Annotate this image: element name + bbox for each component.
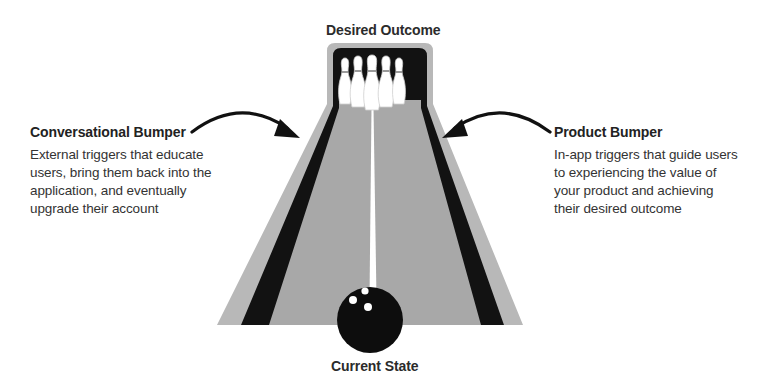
description-line: application, and eventually [30, 182, 260, 200]
description-line: External triggers that educate [30, 146, 260, 164]
product-bumper-title: Product Bumper [554, 124, 774, 140]
product-bumper-description: In-app triggers that guide users to expe… [554, 146, 774, 218]
bowling-lane-diagram: Desired Outcome Current State Conversati… [0, 0, 774, 384]
description-line: your product and achieving [554, 182, 774, 200]
description-line: In-app triggers that guide users [554, 146, 774, 164]
bowling-pins-icon [339, 55, 406, 110]
description-line: to experiencing the value of [554, 164, 774, 182]
curved-arrow-left-icon [442, 113, 550, 138]
description-line: upgrade their account [30, 200, 260, 218]
conversational-bumper-description: External triggers that educate users, br… [30, 146, 260, 218]
bowling-ball-icon [337, 287, 403, 353]
description-line: their desired outcome [554, 200, 774, 218]
product-bumper-block: Product Bumper In-app triggers that guid… [554, 124, 774, 218]
description-line: users, bring them back into the [30, 164, 260, 182]
current-state-label: Current State [331, 358, 418, 374]
conversational-bumper-block: Conversational Bumper External triggers … [30, 124, 260, 218]
conversational-bumper-title: Conversational Bumper [30, 124, 260, 140]
desired-outcome-label: Desired Outcome [326, 22, 440, 38]
